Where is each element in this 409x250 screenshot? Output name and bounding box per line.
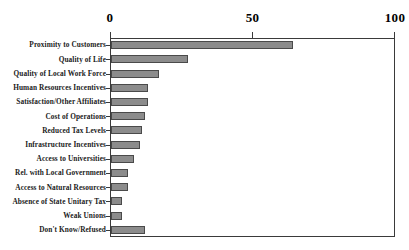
category-label-quality-of-life: Quality of Life <box>0 56 106 63</box>
bar-access-to-natural-resources <box>111 183 128 191</box>
table-row: Human Resources Incentives <box>0 81 409 95</box>
bar-satisfaction-other-affiliates <box>111 98 148 106</box>
category-label-weak-unions: Weak Unions <box>0 212 106 219</box>
table-row: Infrastructure Incentives <box>0 138 409 152</box>
category-label-access-to-universities: Access to Universities <box>0 155 106 162</box>
table-row: Don't Know/Refused <box>0 223 409 237</box>
category-label-reduced-tax-levels: Reduced Tax Levels <box>0 127 106 134</box>
x-axis-tick-label-100: 100 <box>385 10 405 26</box>
x-axis-tick-label-50: 50 <box>246 10 260 26</box>
bar-proximity-to-customers <box>111 41 293 49</box>
bar-rows: Proximity to Customers Quality of Life Q… <box>0 38 409 237</box>
category-label-proximity-to-customers: Proximity to Customers <box>0 41 106 48</box>
horizontal-bar-chart: 0 50 100 Proximity to Customers Quality … <box>0 0 409 250</box>
table-row: Proximity to Customers <box>0 38 409 52</box>
table-row: Weak Unions <box>0 209 409 223</box>
category-label-human-resources-incentives: Human Resources Incentives <box>0 84 106 91</box>
category-label-rel-with-local-government: Rel. with Local Government <box>0 169 106 176</box>
bar-cost-of-operations <box>111 112 145 120</box>
table-row: Rel. with Local Government <box>0 166 409 180</box>
category-label-infrastructure-incentives: Infrastructure Incentives <box>0 141 106 148</box>
table-row: Quality of Life <box>0 52 409 66</box>
bar-quality-of-life <box>111 55 188 63</box>
x-axis-tick-label-0: 0 <box>107 10 114 26</box>
bar-infrastructure-incentives <box>111 141 140 149</box>
category-label-access-to-natural-resources: Access to Natural Resources <box>0 184 106 191</box>
table-row: Access to Universities <box>0 152 409 166</box>
bar-weak-unions <box>111 212 122 220</box>
table-row: Quality of Local Work Force <box>0 66 409 80</box>
category-label-cost-of-operations: Cost of Operations <box>0 113 106 120</box>
category-label-absence-of-state-unitary-tax: Absence of State Unitary Tax <box>0 198 106 205</box>
table-row: Reduced Tax Levels <box>0 123 409 137</box>
bar-quality-of-local-work-force <box>111 70 159 78</box>
bar-access-to-universities <box>111 155 134 163</box>
category-label-dont-know-refused: Don't Know/Refused <box>0 226 106 233</box>
table-row: Access to Natural Resources <box>0 180 409 194</box>
category-label-quality-of-local-work-force: Quality of Local Work Force <box>0 70 106 77</box>
table-row: Absence of State Unitary Tax <box>0 194 409 208</box>
table-row: Satisfaction/Other Affiliates <box>0 95 409 109</box>
bar-reduced-tax-levels <box>111 126 142 134</box>
category-label-satisfaction-other-affiliates: Satisfaction/Other Affiliates <box>0 98 106 105</box>
bar-rel-with-local-government <box>111 169 128 177</box>
bar-absence-of-state-unitary-tax <box>111 197 122 205</box>
x-axis: 0 50 100 <box>0 0 409 36</box>
bar-human-resources-incentives <box>111 84 148 92</box>
table-row: Cost of Operations <box>0 109 409 123</box>
bar-dont-know-refused <box>111 226 145 234</box>
